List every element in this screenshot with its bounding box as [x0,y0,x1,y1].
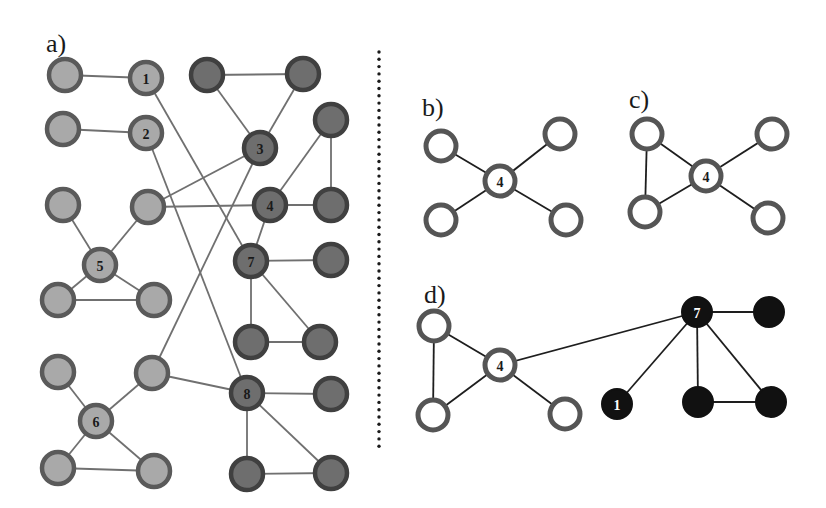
graph-node [630,197,660,227]
node-label: 6 [93,415,100,430]
graph-node [426,131,456,161]
divider-dot [377,313,380,316]
divider-dot [377,408,380,411]
graph-edge [500,312,697,365]
graph-node-4: 4 [485,350,515,380]
divider-dot [377,320,380,323]
graph-node-7: 7 [682,297,712,327]
graph-node [132,191,164,223]
node-label: 4 [497,359,504,374]
graph-edge [146,78,251,261]
node-circle [757,119,787,149]
divider-dot [377,65,380,68]
divider-dot [377,240,380,243]
node-label: 3 [257,142,264,157]
node-circle [632,119,662,149]
node-circle [545,119,575,149]
divider-dot [377,94,380,97]
graph-node [138,284,170,316]
divider-dot [377,277,380,280]
node-label: 7 [694,306,701,321]
divider-dot [377,145,380,148]
node-circle [550,399,580,429]
divider-dot [377,101,380,104]
graph-node [42,452,74,484]
divider-dot [377,226,380,229]
divider-dot [377,299,380,302]
panel-label-d: d) [424,280,446,309]
graph-node-1: 1 [130,62,162,94]
divider-dot [377,123,380,126]
graph-node [632,119,662,149]
divider-dot [377,335,380,338]
graph-node [304,326,336,358]
graph-node [426,205,456,235]
nodes-layer: 1234578644471 [42,58,787,490]
divider-dot [377,415,380,418]
node-label: 5 [97,259,104,274]
graph-node [315,189,347,221]
node-label: 7 [248,255,255,270]
graph-node [138,455,170,487]
graph-node [754,297,784,327]
graph-node-1: 1 [602,389,632,419]
graph-node [757,119,787,149]
graph-node-4: 4 [485,166,515,196]
node-circle [138,284,170,316]
divider-dot [377,50,380,53]
graph-node [315,104,347,136]
network-diagram-canvas: 1234578644471 a)b)c)d) [0,0,826,508]
graph-node [191,59,223,91]
node-circle [683,387,713,417]
graph-edge [617,312,697,404]
graph-node [756,387,786,417]
divider-dot [377,284,380,287]
graph-node [551,205,581,235]
divider-dot [377,189,380,192]
node-circle [630,197,660,227]
divider-dot [377,160,380,163]
graph-node [136,357,168,389]
divider-dot [377,72,380,75]
graph-edge [697,312,771,402]
node-circle [754,297,784,327]
node-circle [426,131,456,161]
node-circle [304,326,336,358]
network-figure: 1234578644471 a)b)c)d) [0,0,826,508]
divider-dot [377,342,380,345]
graph-node [550,399,580,429]
node-circle [138,455,170,487]
node-circle [47,113,79,145]
graph-node-4: 4 [254,189,286,221]
divider-dot [377,255,380,258]
graph-node-8: 8 [231,377,263,409]
divider-dot [377,153,380,156]
divider-dot [377,437,380,440]
divider-dot [377,445,380,448]
divider-dot [377,80,380,83]
graph-node [47,189,79,221]
node-circle [191,59,223,91]
divider-dot [377,58,380,61]
node-label: 4 [267,199,274,214]
divider-dot [377,87,380,90]
node-circle [42,284,74,316]
graph-node [47,113,79,145]
node-circle [419,311,449,341]
graph-node [49,59,81,91]
graph-node [315,457,347,489]
node-circle [426,205,456,235]
node-circle [47,189,79,221]
divider-dot [377,393,380,396]
divider-dot [377,138,380,141]
node-label: 4 [497,175,504,190]
divider-dot [377,291,380,294]
panel-label-a: a) [46,29,66,58]
divider-dot [377,379,380,382]
node-label: 4 [703,170,710,185]
graph-edge [148,205,270,207]
node-circle [42,356,74,388]
divider-dot [377,401,380,404]
graph-node-6: 6 [80,405,112,437]
graph-node-4: 4 [691,161,721,191]
